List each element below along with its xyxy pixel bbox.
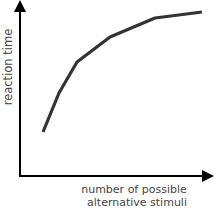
x-axis-label-line-2: alternative stimuli [87,196,187,208]
y-axis-label: reaction time [1,29,15,106]
x-axis-arrow-icon [202,170,214,182]
chart: reaction time number of possible alterna… [0,0,217,208]
data-line [43,12,202,132]
x-axis-label-line-1: number of possible [81,183,187,196]
y-axis-arrow-icon [14,0,26,12]
